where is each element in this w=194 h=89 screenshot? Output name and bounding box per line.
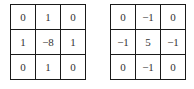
matrix-cell: 0 <box>111 55 136 80</box>
matrix-cell: −1 <box>161 30 186 55</box>
matrix-cell: 1 <box>11 30 36 55</box>
matrix-cell: 0 <box>161 55 186 80</box>
matrix-row: 0 −1 0 <box>111 5 186 30</box>
matrix-cell: −8 <box>36 30 61 55</box>
matrix-row: 0 1 0 <box>11 5 86 30</box>
kernel-matrix-sharpen: 0 −1 0 −1 5 −1 0 −1 0 <box>110 4 186 80</box>
matrix-row: 1 −8 1 <box>11 30 86 55</box>
matrix-cell: 0 <box>111 5 136 30</box>
matrix-cell: 0 <box>61 5 86 30</box>
matrix-row: 0 −1 0 <box>111 55 186 80</box>
kernel-matrix-laplacian: 0 1 0 1 −8 1 0 1 0 <box>10 4 86 80</box>
matrix-cell: 0 <box>11 5 36 30</box>
matrix-cell: −1 <box>136 55 161 80</box>
matrix-row: 0 1 0 <box>11 55 86 80</box>
matrix-cell: 1 <box>36 5 61 30</box>
matrix-cell: 1 <box>61 30 86 55</box>
matrix-cell: 0 <box>161 5 186 30</box>
matrix-cell: 0 <box>11 55 36 80</box>
matrix-cell: −1 <box>111 30 136 55</box>
matrix-cell: 1 <box>36 55 61 80</box>
matrix-cell: 5 <box>136 30 161 55</box>
matrix-row: −1 5 −1 <box>111 30 186 55</box>
matrix-cell: −1 <box>136 5 161 30</box>
matrix-cell: 0 <box>61 55 86 80</box>
